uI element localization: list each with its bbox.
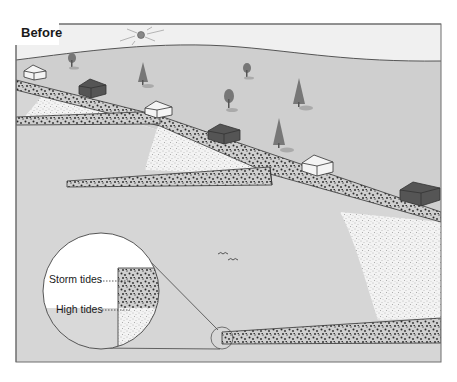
coastline-before-diagram	[0, 0, 457, 382]
figure-title: Before	[21, 25, 62, 40]
storm-tides-label: Storm tides	[49, 273, 102, 285]
high-tides-label: High tides	[56, 303, 103, 315]
